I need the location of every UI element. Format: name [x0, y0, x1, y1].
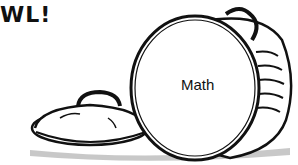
lid-handle — [78, 92, 120, 106]
trash-can-drawing — [0, 0, 298, 165]
can-label: Math — [181, 76, 214, 93]
illustration-canvas: WL! Math — [0, 0, 298, 165]
